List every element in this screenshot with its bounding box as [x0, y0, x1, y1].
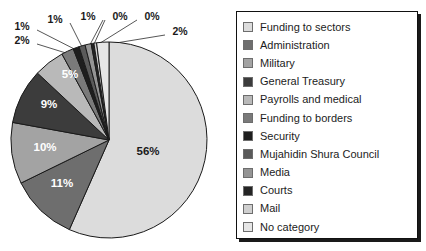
legend-color-swatch-icon — [243, 113, 253, 123]
legend-item-label: Media — [260, 167, 290, 178]
legend-item-label: Funding to sectors — [260, 22, 351, 33]
legend-color-swatch-icon — [243, 22, 253, 32]
legend-item-label: Security — [260, 131, 300, 142]
pie-chart-svg: 56%11%10%9%5% 2%1%1%1%0%0%2% — [0, 0, 230, 251]
legend-item[interactable]: Administration — [243, 36, 417, 54]
legend-color-swatch-icon — [243, 149, 253, 159]
legend-list: Funding to sectorsAdministrationMilitary… — [237, 12, 417, 238]
legend-item-label: Administration — [260, 40, 330, 51]
pie-callout-label: 1% — [47, 13, 63, 25]
legend-color-swatch-icon — [243, 204, 253, 214]
pie-slice-value-label: 9% — [41, 98, 58, 110]
legend-color-swatch-icon — [243, 131, 253, 141]
legend-item[interactable]: No category — [243, 218, 417, 236]
pie-callout-label: 2% — [172, 25, 188, 37]
pie-chart-panel: 56%11%10%9%5% 2%1%1%1%0%0%2% — [0, 0, 230, 251]
pie-callout-label: 2% — [14, 34, 30, 46]
legend-item-label: Mujahidin Shura Council — [260, 149, 379, 160]
pie-callout-label: 0% — [144, 10, 160, 22]
pie-callout-label: 0% — [112, 10, 128, 22]
legend-color-swatch-icon — [243, 168, 253, 178]
pie-slice-value-label: 56% — [136, 145, 159, 157]
pie-slice-value-label: 10% — [33, 141, 56, 153]
legend-color-swatch-icon — [243, 77, 253, 87]
legend-color-swatch-icon — [243, 186, 253, 196]
legend-color-swatch-icon — [243, 40, 253, 50]
legend-item-label: Mail — [260, 203, 280, 214]
legend-item-label: Courts — [260, 185, 292, 196]
pie-callout-label: 1% — [80, 10, 96, 22]
legend-color-swatch-icon — [243, 58, 253, 68]
legend-color-swatch-icon — [243, 95, 253, 105]
legend-item[interactable]: Funding to borders — [243, 109, 417, 127]
legend-item[interactable]: Mujahidin Shura Council — [243, 145, 417, 163]
legend-item[interactable]: Mail — [243, 200, 417, 218]
legend-item-label: General Treasury — [260, 76, 345, 87]
legend-item-label: Payrolls and medical — [260, 94, 362, 105]
legend-item[interactable]: Courts — [243, 182, 417, 200]
legend-item[interactable]: Security — [243, 127, 417, 145]
callout-leader-line — [70, 23, 83, 49]
chart-root: 56%11%10%9%5% 2%1%1%1%0%0%2% Funding to … — [0, 0, 426, 251]
legend-item[interactable]: Military — [243, 54, 417, 72]
pie-slice-value-label: 11% — [51, 177, 73, 189]
legend-item-label: No category — [260, 222, 319, 233]
pie-slices-group — [11, 42, 207, 238]
legend-item[interactable]: General Treasury — [243, 73, 417, 91]
legend-item[interactable]: Media — [243, 164, 417, 182]
legend-item[interactable]: Payrolls and medical — [243, 91, 417, 109]
legend-color-swatch-icon — [243, 222, 253, 232]
legend-item-label: Funding to borders — [260, 113, 352, 124]
legend-item-label: Military — [260, 58, 295, 69]
legend-item[interactable]: Funding to sectors — [243, 18, 417, 36]
pie-callout-label: 1% — [14, 20, 30, 32]
pie-slice-value-label: 5% — [62, 68, 79, 80]
legend-box: Funding to sectorsAdministrationMilitary… — [236, 11, 418, 239]
callout-leader-line — [37, 30, 77, 50]
